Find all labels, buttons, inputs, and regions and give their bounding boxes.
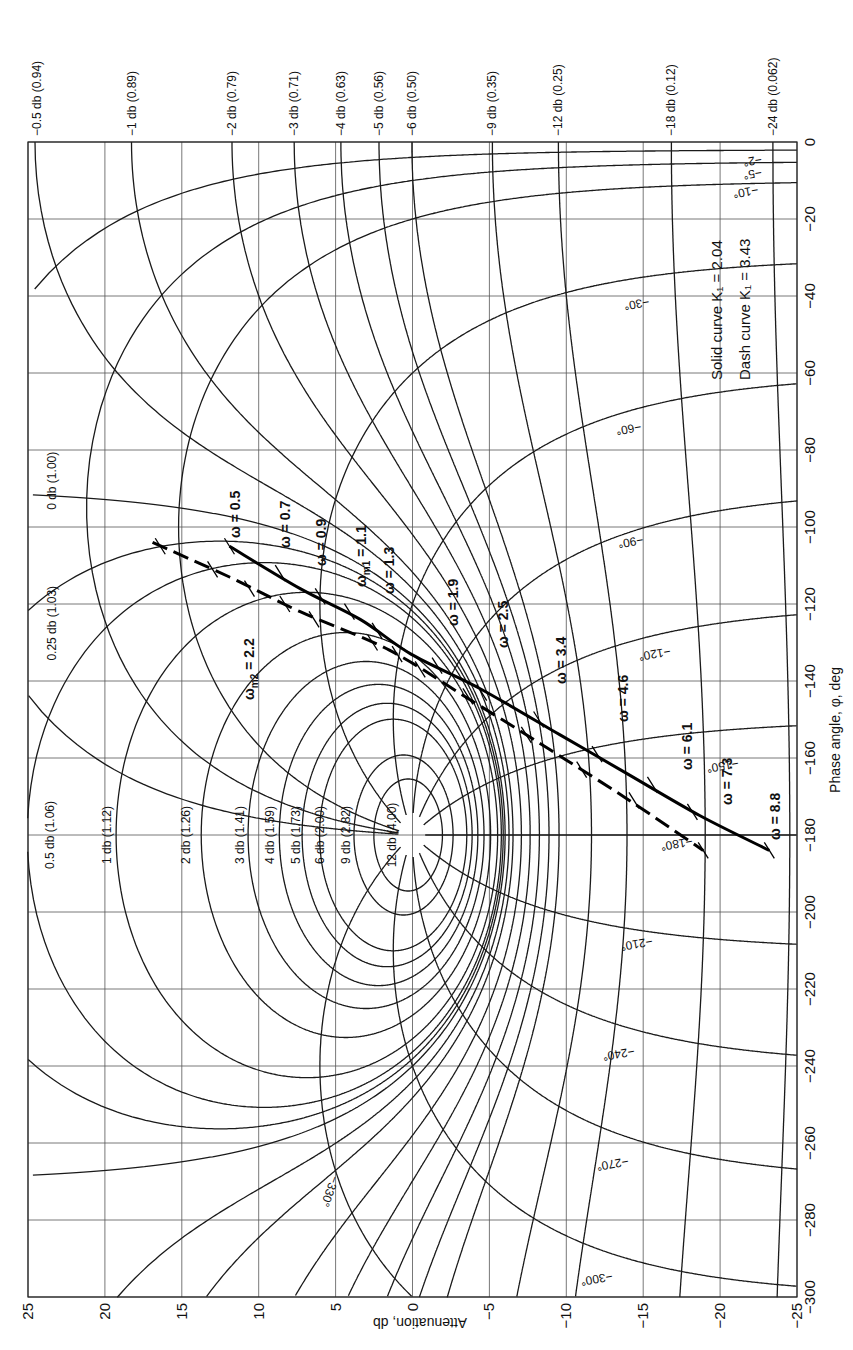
n-label: −210° [620, 934, 654, 953]
n-label: −270° [596, 1154, 630, 1173]
omega-label-group: ω = 0.5 ω = 0.7 ω = 0.9 ωm1 = 1.1 ω = 1.… [227, 491, 783, 840]
omega-tick-mark [244, 581, 254, 597]
omega-label-0.5: ω = 0.5 [227, 491, 243, 538]
m-label-positive: 3 db (1.41) [233, 806, 247, 864]
n-label: −330° [318, 1174, 342, 1209]
omega-label-m2: ωm2 = 2.2 [241, 638, 260, 700]
n-label: −10° [732, 183, 759, 201]
m-contour [132, 142, 514, 1297]
y-tick-label: −20 [801, 206, 818, 231]
x-tick-label: −20 [711, 1303, 728, 1328]
y-axis-title: Phase angle, φ, deg [827, 667, 843, 793]
m-contour [671, 142, 705, 1297]
n-label: −120° [638, 644, 672, 663]
y-tick-label: −220 [801, 972, 818, 1006]
m-label-negative: −9 db (0.35) [485, 71, 499, 136]
omega-tick-mark [577, 762, 587, 778]
y-tick-label: −260 [801, 1126, 818, 1160]
legend: Solid curve K₁ = 2.04 Dash curve K₁ = 3.… [708, 239, 753, 380]
x-axis-title: Attenuation, db [373, 1315, 467, 1331]
y-tick-label: −300 [801, 1280, 818, 1314]
omega-tick-mark [309, 611, 319, 627]
n-label: −60° [615, 420, 642, 438]
n-contour [393, 855, 796, 1286]
m-label-positive: 0.25 db (1.03) [45, 586, 59, 661]
m-label-negative: −0.5 db (0.94) [30, 61, 44, 136]
x-tick-label: −15 [634, 1303, 651, 1328]
omega-label-2.5: ω = 2.5 [495, 601, 511, 648]
omega-label-8.8: ω = 8.8 [767, 793, 783, 840]
m-label-negative: −6 db (0.50) [405, 71, 419, 136]
omega-label-1.9: ω = 1.9 [445, 579, 461, 626]
m-contour [341, 142, 540, 1296]
y-tick-label: −140 [801, 664, 818, 698]
n-contour [320, 264, 797, 823]
m-label-negative: −12 db (0.25) [551, 64, 565, 136]
m-label-negative: −5 db (0.56) [372, 71, 386, 136]
y-tick-label: −100 [801, 510, 818, 544]
m-label-negative: −18 db (0.12) [664, 64, 678, 136]
m-label-positive: 2 db (1.26) [179, 806, 193, 864]
n-label: −240° [602, 1044, 636, 1063]
y-tick-label: −120 [801, 587, 818, 621]
x-tick-label: 0 [404, 1303, 421, 1311]
x-tick-label: 15 [173, 1303, 190, 1320]
nichols-chart: 2520151050−5−10−15−20−250−20−40−60−80−10… [0, 0, 853, 1350]
y-tick-label: −80 [801, 437, 818, 462]
omega-label-m1: ωm1 = 1.1 [353, 525, 372, 587]
n-contour [424, 845, 797, 944]
m-label-positive: 1 db (1.12) [100, 806, 114, 864]
n-label: −180° [660, 834, 694, 853]
omega-label-0.7: ω = 0.7 [277, 501, 293, 548]
axes: 2520151050−5−10−15−20−250−20−40−60−80−10… [19, 138, 818, 1329]
m-label-positive: 0.5 db (1.06) [43, 801, 57, 869]
x-tick-label: 5 [327, 1303, 344, 1311]
legend-dash: Dash curve K₁ = 3.43 [736, 239, 753, 380]
m-label-negative: −4 db (0.63) [334, 71, 348, 136]
y-tick-label: −280 [801, 1203, 818, 1237]
omega-label-1.3: ω = 1.3 [381, 547, 397, 594]
y-tick-label: 0 [801, 138, 818, 146]
m-label-positive: 6 db (2.00) [313, 806, 327, 864]
m-contours [28, 142, 790, 1297]
legend-solid: Solid curve K₁ = 2.04 [708, 240, 725, 380]
m-label-positive: 12 db (4.00) [385, 803, 399, 868]
omega-tick-mark [698, 842, 708, 858]
omega-label-7.3: ω = 7.3 [719, 758, 735, 805]
omega-label-3.4: ω = 3.4 [553, 637, 569, 684]
y-tick-label: −40 [801, 283, 818, 308]
y-tick-label: −160 [801, 741, 818, 775]
omega-tick-mark [224, 538, 234, 554]
y-tick-label: −240 [801, 1049, 818, 1083]
y-tick-label: −200 [801, 895, 818, 929]
m-label-negative: −3 db (0.71) [287, 71, 301, 136]
omega-tick-mark [764, 842, 774, 858]
y-tick-label: −60 [801, 360, 818, 385]
x-tick-label: 20 [96, 1303, 113, 1320]
m-contour [773, 142, 790, 1297]
y-tick-label: −180 [801, 818, 818, 852]
n-label: −30° [623, 295, 650, 313]
m-label-negative: −1 db (0.89) [125, 71, 139, 136]
m-label-zero: 0 db (1.00) [45, 452, 59, 510]
m-contour [379, 142, 549, 1297]
m-label-positive: 5 db (1.73) [289, 806, 303, 864]
x-tick-label: −5 [480, 1303, 497, 1320]
omega-label-4.6: ω = 4.6 [615, 675, 631, 722]
m-contour-labels: −0.5 db (0.94)−1 db (0.89)−2 db (0.79)−3… [30, 58, 780, 869]
chart-canvas: 2520151050−5−10−15−20−250−20−40−60−80−10… [0, 0, 853, 1350]
omega-label-6.1: ω = 6.1 [679, 723, 695, 770]
n-label: −300° [580, 1269, 614, 1288]
grid-lines [28, 142, 797, 1297]
m-contour [232, 142, 521, 1296]
omega-label-0.9: ω = 0.9 [313, 519, 329, 566]
x-tick-label: −10 [557, 1303, 574, 1328]
m-label-positive: 9 db (2.82) [339, 806, 353, 864]
m-label-positive: 4 db (1.59) [263, 806, 277, 864]
m-contour [492, 142, 591, 1297]
n-contour [420, 853, 797, 1055]
x-tick-label: 25 [19, 1303, 36, 1320]
m-label-negative: −24 db (0.062) [766, 58, 780, 136]
x-tick-label: 10 [250, 1303, 267, 1320]
n-contour [424, 726, 797, 825]
